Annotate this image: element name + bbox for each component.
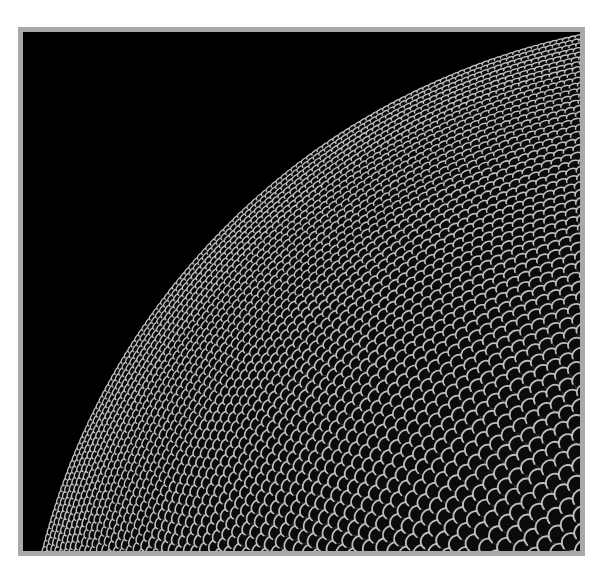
ommatidia-dome (23, 32, 580, 551)
compound-eye-photo (23, 32, 580, 551)
image-frame (18, 27, 585, 556)
